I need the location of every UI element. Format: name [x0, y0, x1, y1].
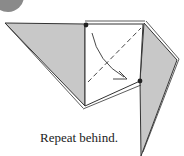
step-number-circle	[0, 0, 24, 12]
center-square	[85, 24, 143, 106]
caption: Repeat behind.	[40, 130, 118, 146]
reference-dot-bottom	[138, 79, 143, 84]
right-flap	[140, 23, 177, 156]
reference-dot-top	[84, 23, 89, 28]
